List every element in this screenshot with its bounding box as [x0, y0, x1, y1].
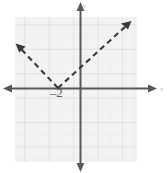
y-axis-bottom-arrowhead — [77, 163, 85, 172]
x-axis-left-arrowhead — [3, 85, 12, 93]
y-axis-label: y — [82, 2, 87, 10]
x-axis-label: x — [159, 85, 164, 93]
x-axis-right-arrowhead — [148, 85, 157, 93]
coordinate-plane-svg: x y — [0, 0, 167, 173]
graph-figure: x y –2 — [0, 0, 167, 173]
vertex-x-intercept-label: –2 — [50, 86, 62, 99]
